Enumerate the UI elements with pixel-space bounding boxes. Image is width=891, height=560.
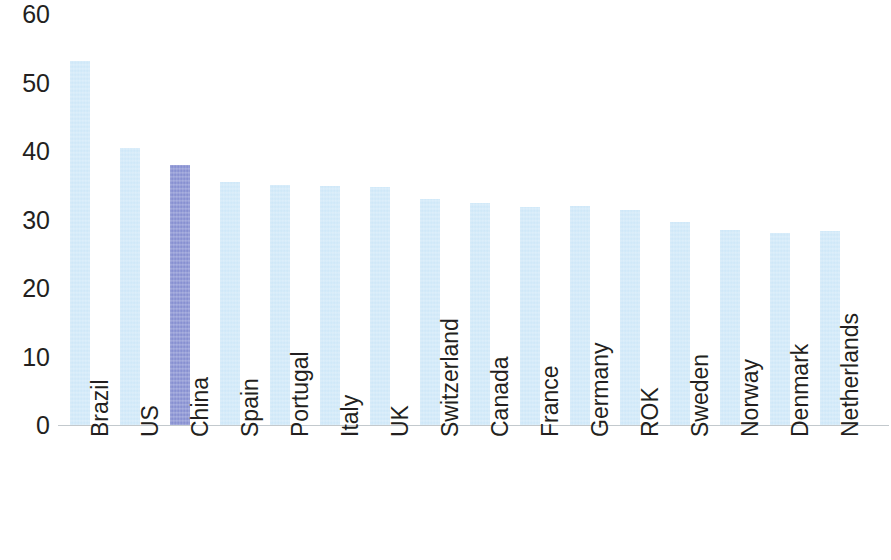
- x-category-label: Netherlands: [839, 313, 862, 437]
- y-tick-label: 40: [22, 139, 50, 164]
- y-tick-label: 30: [22, 207, 50, 232]
- bar-chart: 0102030405060 BrazilUSChinaSpainPortugal…: [0, 0, 891, 560]
- bar[interactable]: [70, 61, 90, 425]
- bar-rect: [70, 61, 90, 425]
- x-category-label: Germany: [589, 342, 612, 437]
- y-tick-label: 50: [22, 70, 50, 95]
- plot-area: BrazilUSChinaSpainPortugalItalyUKSwitzer…: [56, 0, 891, 560]
- bar[interactable]: [370, 187, 390, 425]
- x-category-label: Brazil: [89, 379, 112, 437]
- bar-rect: [120, 148, 140, 425]
- x-category-label: Spain: [239, 378, 262, 437]
- bar-rect: [320, 186, 340, 425]
- x-category-label: Switzerland: [439, 318, 462, 437]
- y-tick-label: 60: [22, 2, 50, 27]
- bar[interactable]: [120, 148, 140, 425]
- x-category-label: UK: [389, 405, 412, 437]
- x-category-label: Portugal: [289, 351, 312, 437]
- y-axis: 0102030405060: [0, 0, 56, 560]
- y-tick-label: 0: [36, 413, 50, 438]
- x-category-label: China: [189, 377, 212, 437]
- x-category-label: Sweden: [689, 354, 712, 437]
- x-category-label: Italy: [339, 395, 362, 437]
- x-category-label: France: [539, 365, 562, 437]
- x-category-label: ROK: [639, 387, 662, 437]
- x-category-label: Canada: [489, 356, 512, 437]
- x-category-label: Denmark: [789, 344, 812, 437]
- y-tick-label: 20: [22, 276, 50, 301]
- bar[interactable]: [320, 186, 340, 425]
- y-tick-label: 10: [22, 344, 50, 369]
- x-category-label: US: [139, 405, 162, 437]
- bar-rect: [370, 187, 390, 425]
- x-axis-line: [58, 425, 889, 426]
- x-category-label: Norway: [739, 359, 762, 437]
